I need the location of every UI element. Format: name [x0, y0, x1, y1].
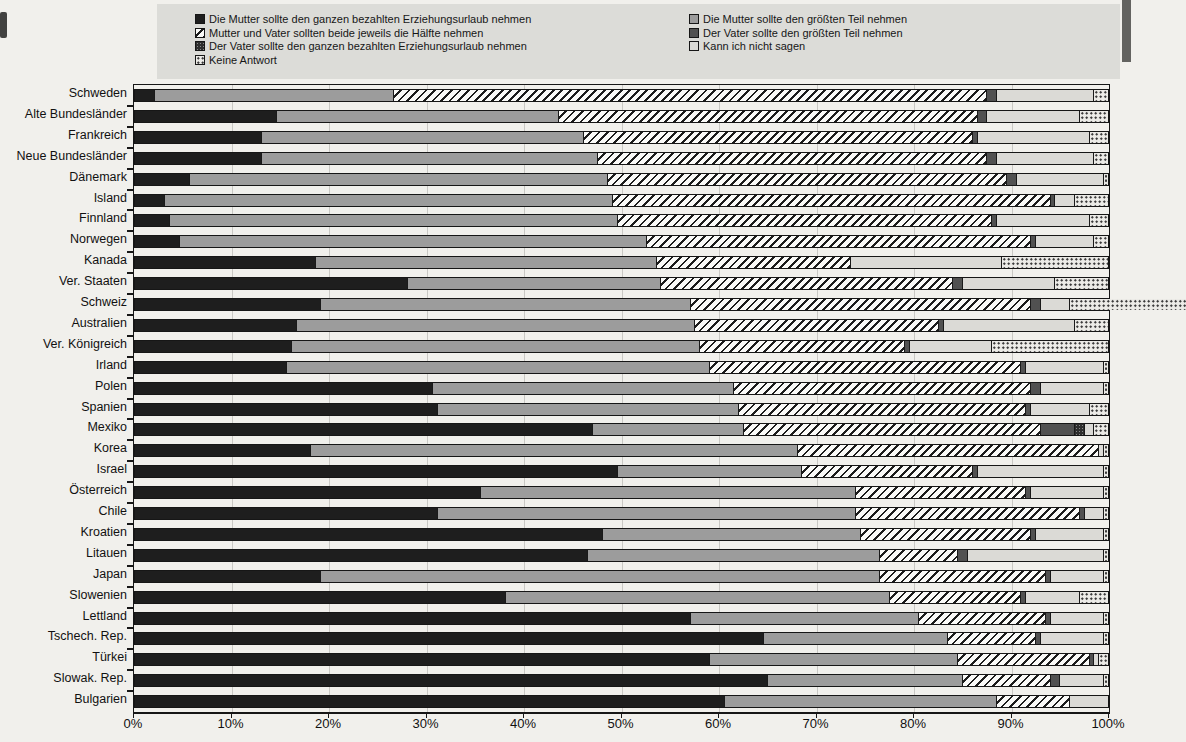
- bar-segment-mutter_groesste: [617, 466, 802, 477]
- bar-segment-haelfte: [597, 153, 986, 164]
- bar-segment-mutter_groesste: [169, 215, 617, 226]
- x-axis-tick: [913, 713, 914, 718]
- country-label: Österreich: [0, 483, 127, 498]
- country-label: Polen: [0, 379, 127, 394]
- bar-segment-mutter_ganz: [135, 215, 169, 226]
- bar-segment-mutter_ganz: [135, 571, 320, 582]
- bar-segment-vater_groesste: [1006, 174, 1016, 185]
- bar-segment-haelfte: [947, 633, 1035, 644]
- x-axis-tick: [523, 713, 524, 718]
- bar-segment-mutter_ganz: [135, 257, 315, 268]
- bar-segment-mutter_ganz: [135, 487, 480, 498]
- bar-segment-mutter_groesste: [310, 445, 797, 456]
- bar-segment-vater_groesste: [977, 111, 987, 122]
- legend-item: Keine Antwort: [195, 53, 531, 67]
- x-axis-label: 80%: [881, 716, 945, 731]
- country-label: Schweden: [0, 86, 127, 101]
- bar-segment-keine: [1074, 320, 1108, 331]
- bar-segment-kann: [1035, 236, 1093, 247]
- bar-segment-mutter_groesste: [587, 550, 879, 561]
- legend-label: Mutter und Vater sollten beide jeweils d…: [209, 27, 483, 39]
- bar-row: [134, 549, 1109, 562]
- bar-segment-haelfte: [957, 654, 1088, 665]
- bar-row: [134, 214, 1109, 227]
- country-label: Ver. Staaten: [0, 274, 127, 289]
- row-tick: [127, 209, 133, 211]
- x-axis-tick: [133, 713, 134, 718]
- bar-segment-mutter_groesste: [602, 529, 860, 540]
- legend-label: Die Mutter sollte den ganzen bezahlten E…: [209, 13, 531, 25]
- row-tick: [127, 168, 133, 170]
- bar-segment-keine: [1103, 529, 1108, 540]
- bar-segment-haelfte: [733, 383, 1030, 394]
- bar-row: [134, 382, 1109, 395]
- legend-column-0: Die Mutter sollte den ganzen bezahlten E…: [195, 12, 531, 67]
- bar-segment-mutter_groesste: [767, 675, 962, 686]
- legend-item: Der Vater sollte den größten Teil nehmen: [689, 26, 907, 40]
- bar-segment-mutter_groesste: [505, 592, 889, 603]
- country-label: Island: [0, 191, 127, 206]
- bar-segment-haelfte: [694, 320, 937, 331]
- bar-row: [134, 131, 1109, 144]
- country-label: Kroatien: [0, 525, 127, 540]
- bar-segment-mutter_ganz: [135, 174, 189, 185]
- bar-segment-haelfte: [889, 592, 1020, 603]
- bar-segment-haelfte: [646, 236, 1030, 247]
- bar-segment-keine: [991, 341, 1108, 352]
- x-axis-label: 0%: [101, 716, 165, 731]
- country-label: Norwegen: [0, 232, 127, 247]
- bar-segment-keine: [1103, 466, 1108, 477]
- bar-segment-kann: [1040, 383, 1103, 394]
- row-tick: [127, 230, 133, 232]
- bar-segment-kann: [962, 278, 1054, 289]
- x-axis-tick: [718, 713, 719, 718]
- bar-row: [134, 486, 1109, 499]
- bar-segment-mutter_ganz: [135, 195, 164, 206]
- row-tick: [127, 126, 133, 128]
- x-axis-label: 30%: [394, 716, 458, 731]
- bar-row: [134, 89, 1109, 102]
- bar-segment-haelfte: [612, 195, 1050, 206]
- bar-row: [134, 110, 1109, 123]
- bar-row: [134, 591, 1109, 604]
- country-label: Frankreich: [0, 128, 127, 143]
- bar-row: [134, 319, 1109, 332]
- bar-segment-mutter_ganz: [135, 236, 179, 247]
- vater_ganz-swatch: [195, 41, 205, 51]
- bar-row: [134, 194, 1109, 207]
- bar-segment-haelfte: [879, 571, 1044, 582]
- bar-segment-mutter_ganz: [135, 613, 690, 624]
- chart-legend: Die Mutter sollte den ganzen bezahlten E…: [157, 4, 1120, 79]
- bar-segment-haelfte: [962, 675, 1050, 686]
- row-tick: [127, 105, 133, 107]
- row-tick: [127, 607, 133, 609]
- bar-segment-mutter_ganz: [135, 424, 592, 435]
- bar-segment-vater_groesste: [957, 550, 967, 561]
- bar-segment-kann: [1069, 696, 1108, 707]
- row-tick: [127, 586, 133, 588]
- bar-segment-keine: [1089, 215, 1108, 226]
- bar-segment-keine: [1103, 487, 1108, 498]
- x-axis-label: 10%: [199, 716, 263, 731]
- bar-row: [134, 235, 1109, 248]
- bar-segment-vater_groesste: [986, 153, 996, 164]
- bar-segment-mutter_groesste: [690, 613, 919, 624]
- bar-segment-mutter_ganz: [135, 508, 437, 519]
- bar-segment-kann: [1054, 195, 1073, 206]
- bar-segment-keine: [1093, 153, 1108, 164]
- bar-segment-keine: [1079, 111, 1108, 122]
- bar-segment-keine: [1093, 90, 1108, 101]
- x-axis-label: 20%: [296, 716, 360, 731]
- bar-segment-keine: [1079, 592, 1108, 603]
- x-axis-label: 90%: [979, 716, 1043, 731]
- bar-segment-kann: [1025, 362, 1103, 373]
- country-label: Neue Bundesländer: [0, 149, 127, 164]
- bar-row: [134, 653, 1109, 666]
- bar-segment-kann: [977, 466, 1103, 477]
- row-tick: [127, 293, 133, 295]
- country-label: Alte Bundesländer: [0, 107, 127, 122]
- bar-segment-keine: [1089, 404, 1108, 415]
- bar-segment-mutter_ganz: [135, 299, 320, 310]
- country-label: Lettland: [0, 609, 127, 624]
- row-tick: [127, 356, 133, 358]
